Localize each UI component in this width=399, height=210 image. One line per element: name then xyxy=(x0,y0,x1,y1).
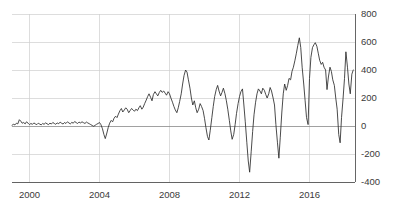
x-tick-label: 2000 xyxy=(19,189,40,200)
chart-container: -400-2000200400600800 200020042008201220… xyxy=(0,0,399,210)
x-tick-label: 2012 xyxy=(229,189,250,200)
y-tick-labels-group: -400-2000200400600800 xyxy=(361,8,380,187)
y-tick-label: -400 xyxy=(361,176,380,187)
x-tick-labels-group: 20002004200820122016 xyxy=(19,189,320,200)
line-chart: -400-2000200400600800 200020042008201220… xyxy=(0,0,399,210)
y-tick-label: 400 xyxy=(361,64,377,75)
y-tick-label: 200 xyxy=(361,92,377,103)
x-tick-label: 2016 xyxy=(299,189,320,200)
plot-series-group xyxy=(12,38,353,172)
x-tick-label: 2004 xyxy=(89,189,110,200)
y-tick-label: 0 xyxy=(361,120,366,131)
series-line-1 xyxy=(12,38,353,172)
y-tick-label: 800 xyxy=(361,8,377,19)
x-tick-label: 2008 xyxy=(159,189,180,200)
gridlines-group xyxy=(12,14,355,182)
y-tick-label: -200 xyxy=(361,148,380,159)
y-tick-label: 600 xyxy=(361,36,377,47)
